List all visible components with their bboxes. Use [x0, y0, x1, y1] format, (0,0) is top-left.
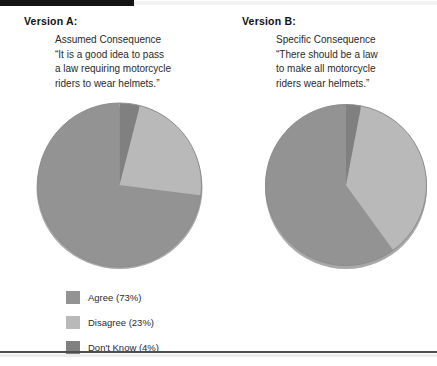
caption-line: Specific Consequence	[276, 33, 378, 48]
panel-version-b: Version B: Specific Consequence “There s…	[219, 0, 437, 351]
pie-slices-b	[266, 105, 427, 266]
caption-line: a law requiring motorcycle	[55, 62, 171, 77]
pie-slices-a	[38, 103, 202, 267]
caption-line: “There should be a law	[276, 48, 378, 63]
pie-svg-b	[264, 101, 431, 270]
pie-svg-a	[36, 101, 203, 270]
pie-chart-version-a	[36, 101, 203, 270]
legend-label-agree: Agree (73%)	[88, 292, 141, 303]
legend-swatch-agree	[66, 291, 80, 304]
legend-swatch-disagree	[66, 316, 80, 329]
legend-item-agree: Agree (73%)	[66, 287, 159, 307]
caption-line: “It is a good idea to pass	[55, 48, 171, 63]
caption-line: riders wear helmets.”	[276, 77, 378, 92]
legend-label-disagree: Disagree (23%)	[88, 317, 154, 328]
caption-line: riders to wear helmets.”	[55, 77, 171, 92]
legend-item-disagree: Disagree (23%)	[66, 312, 159, 332]
version-b-caption: Specific Consequence “There should be a …	[276, 33, 378, 91]
pie-chart-version-b	[264, 101, 431, 270]
caption-line: to make all motorcycle	[276, 62, 378, 77]
panel-version-a: Version A: Assumed Consequence “It is a …	[0, 0, 218, 351]
version-a-caption: Assumed Consequence “It is a good idea t…	[55, 33, 171, 91]
version-a-title: Version A:	[24, 15, 78, 27]
bottom-rule-soft	[0, 354, 437, 357]
caption-line: Assumed Consequence	[55, 33, 171, 48]
version-b-title: Version B:	[242, 15, 296, 27]
bottom-rule	[0, 351, 437, 353]
